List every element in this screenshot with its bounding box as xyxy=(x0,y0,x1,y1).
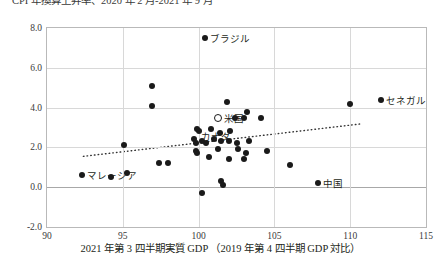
data-point xyxy=(79,172,85,178)
y-axis-tick-label: 6.0 xyxy=(30,63,42,73)
gridline-vertical xyxy=(123,28,124,227)
data-point xyxy=(214,114,222,122)
y-axis-tick-label: -2.0 xyxy=(27,222,42,232)
data-point xyxy=(347,101,353,107)
data-point xyxy=(193,140,199,146)
data-point xyxy=(199,190,205,196)
data-point-label: 中国 xyxy=(323,176,343,190)
y-axis-tick-label: 2.0 xyxy=(30,142,42,152)
data-point xyxy=(235,146,241,152)
data-point-label: 米国 xyxy=(224,111,244,125)
scatter-chart-figure: CPI 年換算上昇率、2020 年 2 月‐2021 年 9 月 8.06.04… xyxy=(0,0,441,263)
data-point xyxy=(202,35,208,41)
y-axis-tick-label: 4.0 xyxy=(30,103,42,113)
data-point xyxy=(241,156,247,162)
trendline xyxy=(47,28,426,227)
data-point xyxy=(215,146,221,152)
data-point-label: セネガル xyxy=(386,93,426,107)
chart-title: CPI 年換算上昇率、2020 年 2 月‐2021 年 9 月 xyxy=(12,0,213,7)
data-point xyxy=(378,97,384,103)
data-point xyxy=(203,140,209,146)
data-point xyxy=(108,174,114,180)
data-point xyxy=(226,156,232,162)
data-point xyxy=(149,103,155,109)
data-point xyxy=(315,180,321,186)
gridline-horizontal xyxy=(47,68,426,69)
data-point xyxy=(244,109,250,115)
gridline-horizontal xyxy=(47,187,426,188)
data-point xyxy=(156,160,162,166)
y-axis-tick-label: 0.0 xyxy=(30,182,42,192)
plot-area: 8.06.04.02.00.0-2.09095100105110115ブラジルセ… xyxy=(46,27,427,228)
gridline-vertical xyxy=(350,28,351,227)
data-point xyxy=(264,148,270,154)
data-point xyxy=(224,99,230,105)
data-point xyxy=(206,154,212,160)
data-point xyxy=(287,162,293,168)
gridline-horizontal xyxy=(47,108,426,109)
data-point xyxy=(165,160,171,166)
data-point-label: ブラジル xyxy=(210,31,250,45)
y-axis-tick-label: 8.0 xyxy=(30,23,42,33)
data-point xyxy=(149,83,155,89)
gridline-vertical xyxy=(274,28,275,227)
data-point xyxy=(246,138,252,144)
data-point xyxy=(258,115,264,121)
x-axis-title: 2021 年第 3 四半期実質 GDP （2019 年第 4 四半期 GDP 対… xyxy=(0,240,441,255)
